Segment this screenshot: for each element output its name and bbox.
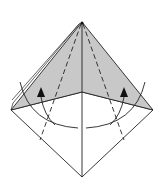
origami-diagram [0, 0, 165, 178]
top-point [81, 22, 84, 25]
